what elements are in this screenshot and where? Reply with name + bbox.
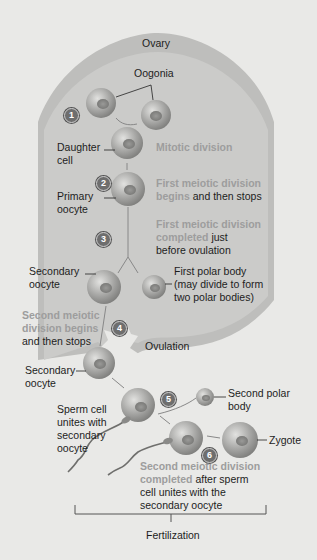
primary-oocyte-label-2: oocyte [57,203,88,215]
step-badge-5: 5 [161,392,176,407]
second-meiotic-completed-label-3: cell unites with the [140,486,226,498]
after-sperm-text: after sperm [193,473,249,485]
oogenesis-diagram: Ovary Oogonia Daughter cell Mitotic divi… [0,0,317,560]
daughter-cell [111,127,143,159]
primary-oocyte-label-1: Primary [57,190,93,202]
secondary-oocyte-b [83,347,115,379]
fertilizing-oocyte [169,421,203,455]
secondary-oocyte-b-label-2: oocyte [25,377,56,389]
zygote-cell [222,422,258,458]
oogonium-cell-2 [141,100,171,130]
second-meiotic-completed-label-2: completed after sperm [140,473,249,485]
step-badge-4: 4 [112,321,127,336]
sperm-unites-label-3: secondary [57,429,105,441]
second-meiotic-completed-label-1: Second meiotic division [140,460,260,472]
ovary-label: Ovary [142,37,170,49]
then-stops-text: and then stops [190,190,262,202]
first-meiotic-completed-label-3: before ovulation [156,244,231,256]
step-badge-1: 1 [64,108,79,123]
completed-emphasis: completed [156,231,209,243]
first-meiotic-begins-label-2: begins and then stops [156,190,262,202]
oogonium-cell-1 [86,88,116,118]
sperm-unites-label-1: Sperm cell [57,403,107,415]
second-polar-body-label-1: Second polar [228,387,290,399]
secondary-oocyte-a [87,270,121,304]
first-meiotic-completed-label-2: completed just [156,231,228,243]
first-meiotic-begins-label-1: First meiotic division [156,177,261,189]
second-meiotic-completed-label-4: secondary oocyte [140,499,222,511]
primary-oocyte [111,172,145,206]
daughter-cell-label-2: cell [57,154,73,166]
second-meiotic-begins-label-1: Second meiotic [22,309,100,321]
step-badge-6: 6 [202,448,217,463]
just-text: just [209,231,228,243]
ovulation-label: Ovulation [145,340,189,352]
oogonia-label: Oogonia [134,67,174,79]
sperm-unites-label-2: unites with [57,416,107,428]
sperm-unites-label-4: oocyte [57,442,88,454]
first-polar-body-label-2: (may divide to form [174,278,263,290]
first-polar-body-label-1: First polar body [174,265,246,277]
zygote-label: Zygote [269,434,301,446]
secondary-oocyte-a-label-2: oocyte [29,278,60,290]
first-polar-body-label-3: two polar bodies) [174,291,254,303]
step-badge-2: 2 [96,176,111,191]
second-polar-body [196,388,214,406]
step-badge-3: 3 [96,232,111,247]
begins-emphasis: begins [156,190,190,202]
daughter-cell-label-1: Daughter [57,141,100,153]
secondary-oocyte-b-label-1: Secondary [25,364,75,376]
second-meiotic-begins-label-3: and then stops [22,335,91,347]
fertilization-label: Fertilization [146,529,200,541]
completed-emphasis-2: completed [140,473,193,485]
mitotic-division-label: Mitotic division [156,141,232,153]
second-meiotic-begins-label-2: division begins [22,322,98,334]
second-polar-body-label-2: body [228,400,251,412]
first-meiotic-completed-label-1: First meiotic division [156,218,261,230]
secondary-oocyte-a-label-1: Secondary [29,265,79,277]
first-polar-body [142,275,166,299]
